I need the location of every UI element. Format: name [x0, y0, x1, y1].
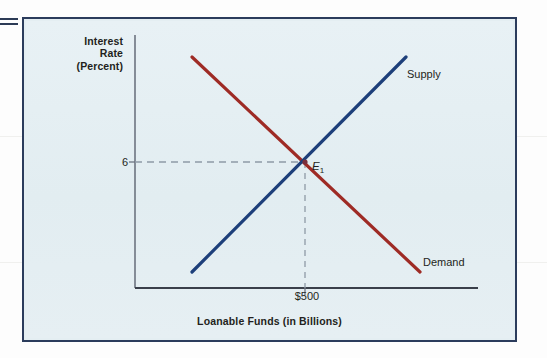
x-axis-title: Loanable Funds (in Billions)	[24, 315, 515, 327]
figure-panel: Interest Rate (Percent) Loanable Funds (…	[22, 17, 517, 342]
equilibrium-subscript: 1	[320, 166, 324, 175]
edge-mark-dash	[0, 23, 18, 25]
y-axis-title: Interest Rate (Percent)	[77, 35, 123, 72]
y-axis-tick-label: 6	[110, 156, 128, 169]
x-axis-tick-label: $500	[272, 290, 342, 303]
page-edge-marks	[0, 18, 18, 30]
supply-curve-label: Supply	[407, 68, 441, 81]
equilibrium-point	[302, 159, 307, 164]
page-background: Interest Rate (Percent) Loanable Funds (…	[0, 0, 547, 358]
edge-mark-dash	[0, 18, 18, 20]
equilibrium-point-label: E1	[312, 160, 324, 176]
demand-curve-label: Demand	[423, 256, 465, 269]
equilibrium-symbol: E	[312, 160, 320, 172]
chart-plot-area: Interest Rate (Percent) Loanable Funds (…	[24, 19, 515, 340]
